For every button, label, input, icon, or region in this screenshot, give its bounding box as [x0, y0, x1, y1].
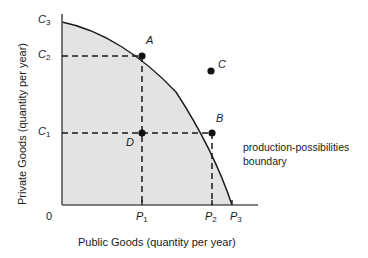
- annotation-line-2: boundary: [243, 154, 349, 168]
- y-tick-label-c1: C1: [38, 125, 50, 138]
- data-point-d: [138, 129, 145, 136]
- feasible-region-shading: [62, 22, 232, 205]
- plot-area: [0, 0, 368, 258]
- data-point-a: [138, 52, 145, 59]
- production-possibilities-figure: C3 C2 C1 P1 P2 P3 0 A B C D production-p…: [0, 0, 368, 258]
- x-tick-label-p3: P3: [230, 210, 242, 223]
- data-point-b: [208, 129, 215, 136]
- x-axis-title: Public Goods (quantity per year): [78, 236, 236, 249]
- point-label-a: A: [146, 34, 153, 47]
- y-tick-label-c2: C2: [38, 48, 50, 61]
- boundary-annotation: production-possibilities boundary: [243, 140, 349, 168]
- y-tick-label-c3: C3: [38, 13, 50, 26]
- point-label-d: D: [126, 136, 134, 149]
- origin-label: 0: [46, 210, 52, 223]
- data-point-c: [207, 67, 214, 74]
- point-label-c: C: [218, 58, 226, 71]
- y-axis-title: Private Goods (quantity per year): [16, 43, 29, 205]
- point-label-b: B: [216, 112, 223, 125]
- x-tick-label-p1: P1: [136, 210, 148, 223]
- x-tick-label-p2: P2: [205, 210, 217, 223]
- annotation-line-1: production-possibilities: [243, 140, 349, 154]
